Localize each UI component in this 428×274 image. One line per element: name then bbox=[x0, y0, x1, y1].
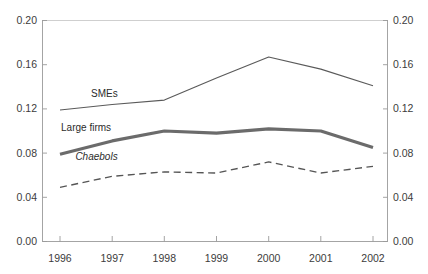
x-tick-label-1999: 1999 bbox=[205, 252, 229, 264]
series-label-large-firms: Large firms bbox=[61, 122, 111, 133]
line-chart: 0.00 0.04 0.08 0.12 0.16 0.20 0.00 0.04 … bbox=[0, 0, 428, 274]
x-tick-label-2001: 2001 bbox=[309, 252, 333, 264]
chart-figure: 0.00 0.04 0.08 0.12 0.16 0.20 0.00 0.04 … bbox=[0, 0, 428, 274]
y-tick-label-right-3: 0.12 bbox=[393, 102, 414, 114]
chart-background bbox=[0, 0, 428, 274]
y-tick-label-right-5: 0.20 bbox=[393, 14, 414, 26]
y-tick-label-left-2: 0.08 bbox=[17, 147, 38, 159]
x-tick-label-1996: 1996 bbox=[48, 252, 72, 264]
y-tick-label-right-0: 0.00 bbox=[393, 235, 414, 247]
series-label-chaebols: Chaebols bbox=[75, 151, 117, 162]
series-label-smes: SMEs bbox=[91, 88, 118, 99]
x-tick-label-2000: 2000 bbox=[257, 252, 281, 264]
y-tick-label-right-4: 0.16 bbox=[393, 58, 414, 70]
y-tick-label-left-0: 0.00 bbox=[17, 235, 38, 247]
y-tick-label-left-4: 0.16 bbox=[17, 58, 38, 70]
y-tick-label-left-5: 0.20 bbox=[17, 14, 38, 26]
x-tick-label-1998: 1998 bbox=[153, 252, 177, 264]
y-tick-label-left-1: 0.04 bbox=[17, 191, 38, 203]
x-tick-label-1997: 1997 bbox=[101, 252, 125, 264]
y-tick-label-right-1: 0.04 bbox=[393, 191, 414, 203]
y-tick-label-right-2: 0.08 bbox=[393, 147, 414, 159]
y-tick-label-left-3: 0.12 bbox=[17, 102, 38, 114]
x-tick-label-2002: 2002 bbox=[361, 252, 385, 264]
